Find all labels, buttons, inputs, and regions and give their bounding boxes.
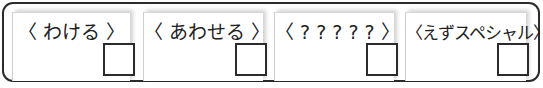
checkbox-wakeru[interactable] xyxy=(103,43,135,76)
checkbox-unknown[interactable] xyxy=(366,43,398,76)
option-label: 〈えずスペシャル〉 xyxy=(406,19,526,44)
checkbox-awaseru[interactable] xyxy=(235,43,267,76)
option-label: 〈 わける 〉 xyxy=(13,17,130,44)
checkbox-ezu-special[interactable] xyxy=(497,43,529,76)
option-label: 〈 あわせる 〉 xyxy=(144,17,263,44)
option-label: 〈 ? ? ? ? ? 〉 xyxy=(275,17,394,44)
